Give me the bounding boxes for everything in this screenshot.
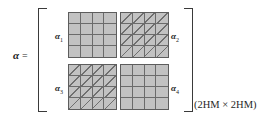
grid-cell — [93, 24, 105, 35]
grid-cell — [121, 87, 133, 98]
grid-cell — [93, 35, 105, 46]
grid-cell — [121, 35, 133, 46]
grid-cell — [133, 87, 145, 98]
grid-cell — [69, 76, 81, 87]
grid-cell — [69, 13, 81, 24]
grid-cell — [156, 87, 168, 98]
grid-cell — [156, 76, 168, 87]
grid-cell — [133, 65, 145, 76]
grid-cell — [69, 46, 81, 57]
block-label-subscript: 1 — [60, 37, 63, 43]
grid-cell — [156, 35, 168, 46]
matrix-block-alpha-1 — [68, 12, 117, 58]
grid-cells — [69, 13, 116, 57]
grid-cell — [121, 13, 133, 24]
grid-cell — [104, 98, 116, 109]
grid-cell — [145, 35, 157, 46]
grid-cell — [133, 98, 145, 109]
grid-cell — [81, 24, 93, 35]
left-bracket — [38, 8, 47, 112]
grid-cell — [69, 98, 81, 109]
grid-cell — [93, 46, 105, 57]
grid-cell — [133, 35, 145, 46]
grid-cell — [104, 87, 116, 98]
grid-cell — [133, 46, 145, 57]
grid-cells — [69, 65, 116, 109]
grid-cell — [156, 24, 168, 35]
block-label-subscript: 2 — [176, 37, 179, 43]
block-label-alpha-2: α2 — [171, 32, 179, 43]
grid-cell — [93, 65, 105, 76]
grid-cell — [93, 76, 105, 87]
block-label-alpha-1: α1 — [55, 32, 63, 43]
grid-cell — [121, 65, 133, 76]
block-matrix-figure: α = — [0, 0, 275, 122]
grid-cell — [104, 35, 116, 46]
block-label-subscript: 3 — [60, 89, 63, 95]
lhs-expression: α = — [13, 50, 28, 61]
grid-cell — [133, 13, 145, 24]
grid-cell — [93, 87, 105, 98]
grid-cell — [81, 13, 93, 24]
grid-cell — [145, 13, 157, 24]
grid-cell — [121, 76, 133, 87]
grid-cells — [121, 13, 168, 57]
grid-cell — [145, 46, 157, 57]
grid-cell — [145, 76, 157, 87]
block-label-alpha-4: α4 — [171, 84, 179, 95]
grid-cell — [133, 76, 145, 87]
grid-cell — [104, 13, 116, 24]
grid-cells — [121, 65, 168, 109]
grid-cell — [156, 13, 168, 24]
grid-cell — [145, 24, 157, 35]
grid-cell — [81, 98, 93, 109]
grid-cell — [93, 13, 105, 24]
grid-cell — [69, 35, 81, 46]
grid-cell — [156, 65, 168, 76]
grid-cell — [81, 87, 93, 98]
grid-cell — [145, 87, 157, 98]
grid-cell — [69, 24, 81, 35]
equals-sign: = — [22, 51, 28, 61]
matrix-block-alpha-4 — [120, 64, 169, 110]
grid-cell — [104, 76, 116, 87]
grid-cell — [93, 98, 105, 109]
grid-cell — [145, 98, 157, 109]
grid-cell — [156, 98, 168, 109]
grid-cell — [81, 65, 93, 76]
grid-cell — [104, 46, 116, 57]
block-label-subscript: 4 — [176, 89, 179, 95]
grid-cell — [121, 46, 133, 57]
grid-cell — [104, 65, 116, 76]
grid-cell — [133, 24, 145, 35]
grid-cell — [69, 87, 81, 98]
alpha-symbol: α — [13, 50, 19, 61]
grid-cell — [81, 76, 93, 87]
grid-cell — [81, 35, 93, 46]
right-bracket — [184, 8, 193, 112]
grid-cell — [81, 46, 93, 57]
grid-cell — [121, 24, 133, 35]
matrix-block-alpha-3 — [68, 64, 117, 110]
grid-cell — [156, 46, 168, 57]
grid-cell — [104, 24, 116, 35]
dimension-annotation: (2HM × 2HM) — [194, 100, 257, 111]
grid-cell — [121, 98, 133, 109]
block-label-alpha-3: α3 — [55, 84, 63, 95]
matrix-block-alpha-2 — [120, 12, 169, 58]
grid-cell — [145, 65, 157, 76]
grid-cell — [69, 65, 81, 76]
